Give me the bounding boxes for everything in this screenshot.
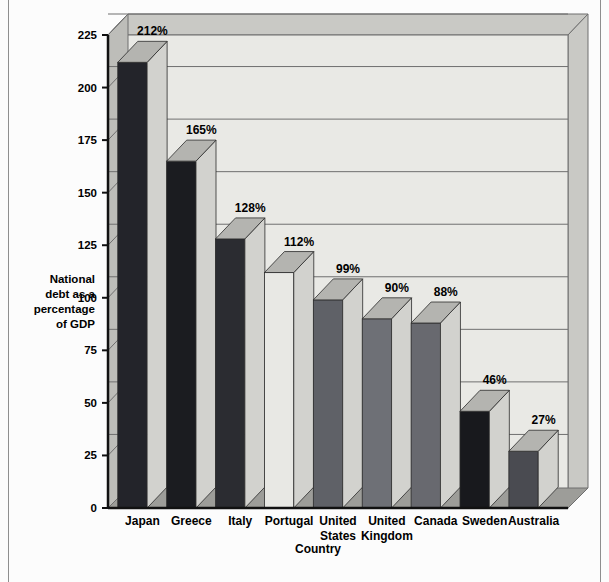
- bar-column: [460, 390, 509, 508]
- bar-front-face: [509, 451, 538, 508]
- x-category-label: Italy: [228, 514, 252, 528]
- y-axis-title-line: percentage: [34, 303, 95, 315]
- bar-column: [264, 252, 313, 508]
- y-tick-label: 150: [78, 187, 97, 199]
- y-axis-title-line: of GDP: [56, 318, 95, 330]
- bar-chart: 0255075100125150175200225 212%165%128%11…: [0, 0, 609, 582]
- bar-side-face: [196, 140, 216, 508]
- x-category-label: Canada: [414, 514, 458, 528]
- y-tick-label: 225: [78, 29, 98, 41]
- bar-column: [167, 140, 216, 508]
- page-root: 0255075100125150175200225 212%165%128%11…: [0, 0, 609, 582]
- y-axis-title-line: National: [50, 273, 95, 285]
- bar-column: [411, 302, 460, 508]
- bar-front-face: [362, 319, 391, 508]
- bar-front-face: [118, 62, 147, 508]
- bar-column: [216, 218, 265, 508]
- bar-value-label: 90%: [385, 281, 409, 295]
- y-axis-tick-labels: 0255075100125150175200225: [78, 29, 98, 514]
- bar-front-face: [216, 239, 245, 508]
- bar-side-face: [147, 41, 167, 508]
- bar-side-face: [245, 218, 265, 508]
- y-tick-label: 75: [84, 344, 97, 356]
- x-category-label: Portugal: [265, 514, 314, 528]
- bar-front-face: [264, 273, 293, 508]
- bar-value-label: 165%: [186, 123, 217, 137]
- x-category-label: States: [320, 529, 356, 543]
- bar-side-face: [294, 252, 314, 508]
- plot-right-face: [568, 14, 588, 508]
- bar-value-label: 112%: [284, 235, 314, 249]
- y-tick-label: 25: [84, 449, 97, 461]
- bar-side-face: [440, 302, 460, 508]
- bar-front-face: [460, 411, 489, 508]
- y-tick-label: 200: [78, 82, 97, 94]
- y-tick-label: 175: [78, 134, 98, 146]
- bar-value-label: 88%: [434, 285, 458, 299]
- y-tick-label: 0: [91, 502, 97, 514]
- bar-side-face: [343, 279, 363, 508]
- bar-value-label: 46%: [483, 373, 507, 387]
- bar-front-face: [313, 300, 342, 508]
- x-category-label: United: [319, 514, 356, 528]
- bar-column: [118, 41, 167, 508]
- bar-column: [313, 279, 362, 508]
- x-axis-category-labels: JapanGreeceItalyPortugalUnitedStatesUnit…: [125, 514, 559, 543]
- bar-side-face: [392, 298, 412, 508]
- plot-top-face: [108, 14, 588, 35]
- x-category-label: Kingdom: [361, 529, 413, 543]
- y-tick-label: 125: [78, 239, 98, 251]
- x-category-label: United: [368, 514, 405, 528]
- bar-value-label: 99%: [336, 262, 360, 276]
- x-axis-title: Country: [295, 542, 341, 556]
- x-category-label: Australia: [508, 514, 560, 528]
- bar-column: [362, 298, 411, 508]
- bar-value-label: 212%: [137, 24, 168, 38]
- bar-value-label: 128%: [235, 201, 266, 215]
- bar-front-face: [411, 323, 440, 508]
- x-category-label: Japan: [125, 514, 160, 528]
- x-category-label: Greece: [171, 514, 212, 528]
- y-axis-title-line: debt as a: [45, 288, 95, 300]
- x-category-label: Sweden: [462, 514, 507, 528]
- bar-value-label: 27%: [532, 413, 556, 427]
- bar-front-face: [167, 161, 196, 508]
- y-tick-label: 50: [84, 397, 97, 409]
